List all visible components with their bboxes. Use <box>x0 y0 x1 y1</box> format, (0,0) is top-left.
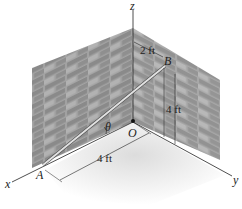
label-a: A <box>35 168 44 182</box>
dim-label-4ft-height: 4 ft <box>166 103 181 115</box>
label-y: y <box>232 173 239 187</box>
label-b: B <box>164 54 172 68</box>
dim-label-4ft-x: 4 ft <box>97 152 112 164</box>
label-z: z <box>129 0 135 13</box>
label-theta: θ <box>105 120 111 134</box>
label-x: x <box>4 177 11 191</box>
origin-point <box>131 119 135 123</box>
diagram-canvas: z x y B A O θ 2 ft 4 ft 4 ft <box>0 0 242 209</box>
dim-label-2ft: 2 ft <box>140 44 155 56</box>
label-o: O <box>128 126 137 140</box>
statics-diagram: z x y B A O θ 2 ft 4 ft 4 ft <box>0 0 242 209</box>
